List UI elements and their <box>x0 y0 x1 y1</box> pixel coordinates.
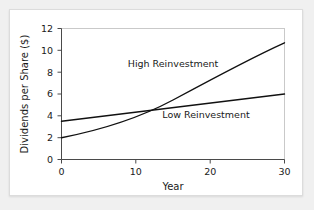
x-tick-label-20: 20 <box>204 166 216 177</box>
x-axis-title: Year <box>161 181 184 192</box>
y-axis-title: Dividends per Share ($) <box>19 35 30 154</box>
plot-frame <box>62 29 285 160</box>
y-tick-label-6: 6 <box>47 88 53 99</box>
y-tick-label-8: 8 <box>47 67 53 78</box>
dividends-line-chart: 0 2 4 6 8 10 12 0 10 20 30 Year Dividend… <box>10 10 304 197</box>
x-tick-label-30: 30 <box>278 166 290 177</box>
y-tick-label-12: 12 <box>41 23 53 34</box>
y-tick-label-0: 0 <box>47 154 53 165</box>
y-tick-label-2: 2 <box>47 132 53 143</box>
y-tick-label-10: 10 <box>41 45 53 56</box>
x-tick-label-0: 0 <box>58 166 64 177</box>
y-axis-ticks <box>58 29 62 160</box>
y-tick-label-4: 4 <box>47 110 53 121</box>
figure-card: 0 2 4 6 8 10 12 0 10 20 30 Year Dividend… <box>9 9 303 196</box>
x-axis-ticks <box>62 160 285 164</box>
series-label-high-reinvestment: High Reinvestment <box>128 58 219 69</box>
page-root: 0 2 4 6 8 10 12 0 10 20 30 Year Dividend… <box>0 0 314 210</box>
x-tick-label-10: 10 <box>130 166 142 177</box>
series-label-low-reinvestment: Low Reinvestment <box>162 109 250 120</box>
